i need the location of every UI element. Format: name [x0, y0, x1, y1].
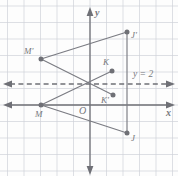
point-j [125, 131, 130, 136]
reflection-line-arrow-right [166, 81, 175, 88]
axis-x [3, 102, 175, 109]
point-label-m: M [35, 110, 43, 119]
point-label-k-prime: K' [101, 96, 109, 105]
axis-label-y: y [95, 8, 99, 18]
origin-label: O [79, 106, 86, 116]
y-axis-arrow-up [87, 7, 94, 16]
point-label-k: K [103, 58, 109, 67]
point-j-prime [125, 30, 130, 35]
coordinate-plane-figure: M' J' K K' M J y x O y = 2 [0, 0, 178, 176]
point-m-prime [39, 57, 44, 62]
point-k [110, 69, 115, 74]
axis-label-x: x [166, 108, 171, 118]
grid-lines [0, 0, 178, 176]
reflection-line-label: y = 2 [133, 70, 153, 80]
axis-y [87, 7, 94, 175]
point-k-prime [111, 93, 116, 98]
graph-canvas [0, 0, 178, 176]
segment-mprime-jprime [41, 32, 127, 59]
point-label-m-prime: M' [24, 47, 33, 56]
y-axis-arrow-down [87, 166, 94, 175]
triangle-segments [41, 32, 127, 133]
point-m [39, 103, 44, 108]
point-label-j-prime: J' [131, 31, 137, 40]
point-label-j: J [131, 134, 135, 143]
